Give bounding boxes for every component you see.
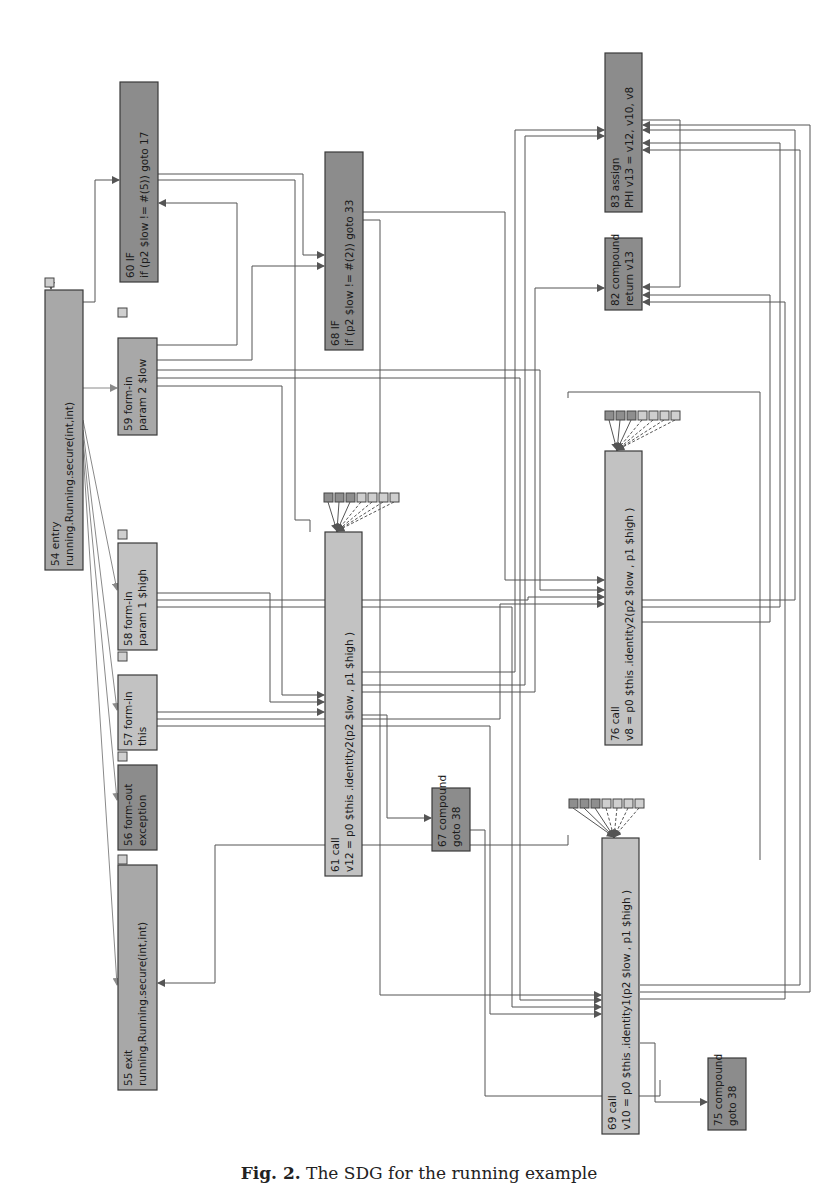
edge-60-61 — [158, 180, 310, 532]
sdg-node-57: 57 form-inthis — [118, 675, 157, 750]
node-statement: param 2 $low — [136, 359, 148, 431]
node-title: 60 IF — [124, 252, 136, 278]
port-square-56 — [118, 752, 127, 761]
port-edge — [337, 502, 361, 531]
node-statement: exception — [136, 795, 148, 846]
port-edge — [337, 502, 394, 531]
port-square — [671, 411, 680, 420]
port-square — [580, 799, 589, 808]
edge-76-top — [568, 392, 760, 860]
sdg-node-75: 75 compoundgoto 38 — [708, 1054, 746, 1130]
node-statement: return v13 — [623, 251, 635, 306]
port-square-58 — [118, 530, 127, 539]
edge-59-68 — [157, 266, 324, 360]
edge-54-60 — [83, 180, 119, 302]
sdg-node-83: 83 assignPHI v13 = v12, v10, v8 — [605, 53, 642, 212]
port-square — [569, 799, 578, 808]
sdg-node-76: 76 callv8 = p0 $this .identity2(p2 $low … — [605, 451, 642, 745]
port-square-57 — [118, 652, 127, 661]
node-statement: running.Running.secure(int,int) — [63, 402, 75, 566]
sdg-node-82: 82 compoundreturn v13 — [605, 234, 642, 310]
edge-76-83 — [642, 130, 795, 600]
port-edge — [609, 420, 617, 450]
node-title: 61 call — [329, 837, 341, 872]
edge-76-82 — [642, 295, 770, 622]
port-square — [624, 799, 633, 808]
edge-69-83 — [640, 150, 800, 985]
figure-caption: Fig. 2. The SDG for the running example — [0, 1163, 838, 1183]
sdg-diagram: 54 entryrunning.Running.secure(int,int)6… — [0, 0, 838, 1194]
edge-61-67 — [362, 715, 431, 818]
port-square — [346, 493, 355, 502]
edge-83-82 — [642, 120, 680, 287]
node-statement: PHI v13 = v12, v10, v8 — [623, 87, 635, 208]
sdg-node-59: 59 form-inparam 2 $low — [118, 338, 157, 435]
node-title: 67 compound — [436, 775, 448, 847]
sdg-node-61: 61 callv12 = p0 $this .identity2(p2 $low… — [325, 532, 362, 876]
edge-57-69 — [157, 726, 601, 1014]
edges-layer — [51, 120, 810, 1102]
port-square-54 — [45, 278, 54, 287]
edge-54-55 — [83, 450, 117, 985]
node-title: 83 assign — [609, 158, 621, 208]
edge-59-61 — [157, 386, 324, 695]
node-title: 54 entry — [49, 522, 61, 566]
port-edge — [614, 808, 639, 837]
port-edge — [595, 808, 614, 837]
node-statement: if (p2 $low != #(2)) goto 33 — [343, 200, 355, 346]
edge-76-83b — [642, 143, 780, 607]
port-square — [390, 493, 399, 502]
port-edge — [614, 808, 628, 837]
edge-61-83b — [362, 136, 604, 685]
port-square — [660, 411, 669, 420]
port-square — [379, 493, 388, 502]
sdg-node-56: 56 form-outexception — [118, 765, 157, 850]
node-statement: v12 = p0 $this .identity2(p2 $low , p1 $… — [343, 632, 355, 872]
node-statement: v8 = p0 $this .identity2(p2 $low , p1 $h… — [623, 508, 635, 741]
node-title: 56 form-out — [122, 784, 134, 846]
port-square-55 — [118, 855, 127, 864]
node-statement: goto 38 — [726, 1086, 738, 1126]
port-edge — [337, 502, 372, 531]
port-square — [638, 411, 647, 420]
edge-58-61 — [157, 593, 324, 702]
node-statement: param 1 $high — [136, 569, 148, 646]
sdg-node-54: 54 entryrunning.Running.secure(int,int) — [45, 290, 83, 570]
sdg-node-55: 55 exitrunning.Running.secure(int,int) — [118, 865, 157, 1090]
caption-label: Fig. 2. — [241, 1163, 301, 1183]
port-square — [368, 493, 377, 502]
node-title: 76 call — [609, 706, 621, 741]
edge-54-56 — [83, 440, 117, 800]
port-edge — [328, 502, 337, 531]
sdg-node-60: 60 IFif (p2 $low != #(5)) goto 17 — [120, 82, 158, 282]
port-edge — [617, 420, 642, 450]
edge-59-60 — [157, 203, 237, 345]
port-edge — [617, 420, 675, 450]
node-title: 59 form-in — [122, 376, 134, 431]
port-square — [649, 411, 658, 420]
node-title: 69 call — [606, 1095, 618, 1130]
port-square — [635, 799, 644, 808]
port-square — [627, 411, 636, 420]
edge-58-69 — [157, 607, 601, 1007]
node-statement: v10 = p0 $this .identity1(p2 $low , p1 $… — [620, 890, 632, 1130]
port-square-59 — [118, 308, 127, 317]
edge-54-57 — [83, 430, 117, 710]
port-edge — [584, 808, 614, 837]
edge-54-58 — [83, 420, 117, 590]
edge-69-75 — [640, 1043, 707, 1102]
node-statement: running.Running.secure(int,int) — [136, 922, 148, 1086]
edge-69-82 — [640, 302, 785, 999]
sdg-node-67: 67 compoundgoto 38 — [432, 775, 470, 851]
port-square — [613, 799, 622, 808]
node-title: 82 compound — [609, 234, 621, 306]
sdg-node-69: 69 callv10 = p0 $this .identity1(p2 $low… — [602, 838, 639, 1134]
port-square — [324, 493, 333, 502]
caption-text: The SDG for the running example — [306, 1163, 597, 1183]
port-square — [605, 411, 614, 420]
port-square — [602, 799, 611, 808]
node-statement: goto 38 — [450, 807, 462, 847]
node-statement: this — [136, 727, 148, 746]
sdg-node-58: 58 form-inparam 1 $high — [118, 543, 157, 650]
edge-61-83 — [362, 130, 604, 672]
